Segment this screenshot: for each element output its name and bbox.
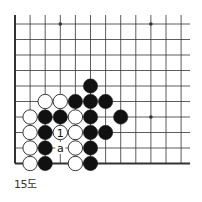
diagram-caption: 15도 <box>14 175 37 191</box>
star-point <box>149 115 153 119</box>
black-stone <box>38 110 52 124</box>
point-label-a: a <box>57 142 64 155</box>
go-board: 1 a <box>0 0 202 202</box>
black-stone <box>38 156 52 170</box>
black-stone <box>98 94 112 108</box>
white-stone <box>68 110 82 124</box>
white-stone <box>23 110 37 124</box>
white-stone <box>68 156 82 170</box>
black-stone <box>114 110 128 124</box>
black-stone <box>83 94 97 108</box>
white-stone <box>38 94 52 108</box>
black-stone <box>98 125 112 139</box>
white-stone <box>68 141 82 155</box>
black-stone <box>83 141 97 155</box>
white-stone <box>23 125 37 139</box>
black-stone <box>83 110 97 124</box>
black-stone <box>38 125 52 139</box>
black-stone <box>83 125 97 139</box>
black-stone <box>68 94 82 108</box>
star-point <box>59 22 63 26</box>
grid-lines <box>15 15 190 164</box>
white-stone <box>23 141 37 155</box>
black-stone <box>83 79 97 93</box>
black-stone <box>53 110 67 124</box>
white-stone <box>23 156 37 170</box>
move-number-label: 1 <box>57 127 64 140</box>
white-stone <box>53 94 67 108</box>
black-stone <box>83 156 97 170</box>
white-stone <box>68 125 82 139</box>
point-labels: a <box>55 142 65 155</box>
star-point <box>149 22 153 26</box>
black-stone <box>38 141 52 155</box>
